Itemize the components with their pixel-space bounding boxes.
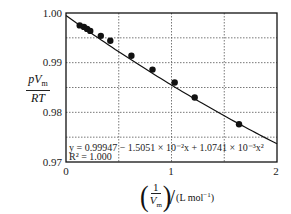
data-point — [171, 79, 177, 85]
y-label-numerator: pV — [28, 72, 41, 86]
data-point — [149, 66, 155, 72]
gridlines — [66, 13, 277, 162]
x-tick-1: 1 — [168, 165, 174, 177]
y-label-denominator: RT — [18, 91, 58, 105]
x-tick-0: 0 — [63, 165, 69, 177]
open-paren: ( — [140, 183, 149, 212]
x-tick-2: 2 — [273, 165, 279, 177]
data-point — [128, 53, 134, 59]
r-squared: R² = 1.000 — [69, 151, 112, 162]
x-label-fraction: 1 Vm — [150, 182, 162, 212]
data-point — [107, 38, 113, 44]
close-paren: ) — [163, 183, 172, 212]
x-label-subscript: m — [156, 201, 161, 209]
y-tick-0.99: 0.99 — [43, 56, 63, 68]
data-point — [87, 28, 93, 34]
y-tick-0.97: 0.97 — [43, 156, 63, 168]
x-label-unit: (L mol−1) — [176, 191, 214, 203]
data-point — [98, 33, 104, 39]
data-point — [236, 121, 242, 127]
data-point — [192, 94, 198, 100]
y-axis-label: pVm RT — [18, 72, 58, 105]
y-label-subscript: m — [42, 79, 48, 88]
x-label-numerator: 1 — [151, 182, 161, 194]
y-tick-0.98: 0.98 — [43, 106, 63, 118]
y-tick-1.00: 1.00 — [43, 7, 63, 19]
x-axis-label: ( 1 Vm ) / (L mol−1) — [140, 182, 214, 212]
